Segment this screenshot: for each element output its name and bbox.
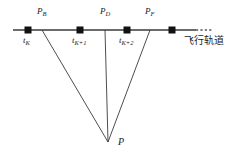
label-point-pb: PB xyxy=(37,7,46,16)
label-time-tk2: tK+2 xyxy=(119,36,134,45)
track-marker-2 xyxy=(77,27,84,34)
ray-pb-to-p xyxy=(42,30,108,142)
label-flight-trajectory: 飞行轨道 xyxy=(184,36,224,46)
label-point-pd-subscript: D xyxy=(106,10,111,17)
label-point-pb-subscript: B xyxy=(43,10,47,17)
label-time-tk1-subscript: K+1 xyxy=(75,39,87,46)
label-time-tk-subscript: K xyxy=(26,39,30,46)
flight-trajectory-diagram: PB PD PF tK tK+1 tK+2 飞行轨道 P xyxy=(0,0,238,156)
ray-pd-to-p xyxy=(105,30,108,142)
label-point-pf-subscript: F xyxy=(151,10,155,17)
label-point-pf-base: P xyxy=(145,6,151,16)
label-time-tk: tK xyxy=(23,36,30,45)
track-marker-3 xyxy=(124,27,131,34)
label-time-tk2-subscript: K+2 xyxy=(122,39,134,46)
label-vertex-p: P xyxy=(118,137,124,147)
label-time-tk1: tK+1 xyxy=(72,36,87,45)
ray-pf-to-p xyxy=(108,30,150,142)
label-point-pf: PF xyxy=(145,7,154,16)
label-point-pd: PD xyxy=(100,7,110,16)
track-marker-4 xyxy=(169,27,176,34)
diagram-canvas xyxy=(0,0,238,156)
label-point-pb-base: P xyxy=(37,6,43,16)
label-point-pd-base: P xyxy=(100,6,106,16)
track-marker-1 xyxy=(25,27,32,34)
